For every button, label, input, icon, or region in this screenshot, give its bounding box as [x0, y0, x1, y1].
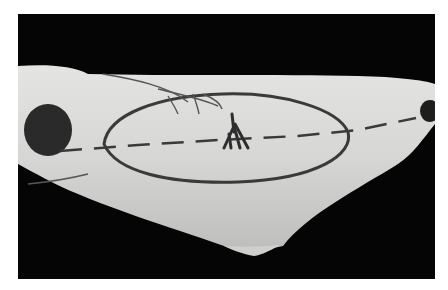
skin-tip [224, 245, 280, 256]
left-dark-patch [24, 104, 72, 156]
clinical-photo [18, 14, 435, 279]
